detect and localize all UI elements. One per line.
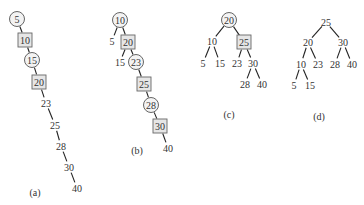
node-label: 23 bbox=[232, 58, 242, 69]
node-20: 20 bbox=[222, 13, 237, 28]
edge-30-28 bbox=[247, 69, 251, 79]
node-15: 15 bbox=[115, 57, 125, 68]
node-15: 15 bbox=[215, 58, 225, 69]
node-30: 30 bbox=[64, 162, 74, 173]
node-20: 20 bbox=[303, 37, 313, 48]
node-10: 10 bbox=[296, 59, 306, 70]
node-23: 23 bbox=[129, 55, 144, 70]
caption-b: (b) bbox=[131, 145, 143, 157]
node-15: 15 bbox=[305, 80, 315, 91]
node-28: 28 bbox=[240, 79, 250, 90]
edge-5-10 bbox=[20, 26, 22, 32]
edge-10-5 bbox=[114, 27, 117, 35]
node-label: 23 bbox=[41, 98, 51, 109]
node-28: 28 bbox=[330, 59, 340, 70]
node-10: 10 bbox=[207, 36, 217, 47]
node-30: 30 bbox=[248, 58, 258, 69]
edge-28-30 bbox=[63, 152, 67, 162]
edge-10-15 bbox=[28, 48, 30, 53]
node-label: 5 bbox=[201, 58, 206, 69]
edge-15-20 bbox=[34, 68, 36, 75]
node-label: 40 bbox=[347, 59, 357, 70]
node-label: 10 bbox=[115, 15, 125, 26]
node-40: 40 bbox=[72, 183, 82, 194]
edge-20-15 bbox=[122, 49, 125, 56]
node-25: 25 bbox=[321, 17, 331, 28]
edge-10-5 bbox=[205, 47, 209, 58]
node-20: 20 bbox=[121, 35, 135, 49]
edge-30-40 bbox=[71, 173, 75, 183]
node-25: 25 bbox=[50, 120, 60, 131]
edge-30-40 bbox=[345, 48, 349, 59]
edge-23-25 bbox=[48, 109, 52, 120]
node-label: 23 bbox=[313, 59, 323, 70]
node-10: 10 bbox=[18, 33, 32, 47]
edge-25-28 bbox=[147, 92, 149, 98]
node-label: 25 bbox=[321, 17, 331, 28]
node-label: 20 bbox=[224, 15, 234, 26]
node-5: 5 bbox=[110, 36, 115, 47]
edge-20-23 bbox=[131, 49, 133, 54]
node-30: 30 bbox=[153, 119, 167, 133]
node-40: 40 bbox=[347, 59, 357, 70]
node-label: 30 bbox=[64, 162, 74, 173]
node-label: 20 bbox=[34, 77, 44, 88]
node-label: 5 bbox=[110, 36, 115, 47]
edge-20-10 bbox=[216, 26, 224, 36]
edge-20-10 bbox=[303, 48, 306, 59]
node-label: 10 bbox=[296, 59, 306, 70]
node-label: 25 bbox=[50, 120, 60, 131]
node-5: 5 bbox=[292, 80, 297, 91]
node-label: 15 bbox=[305, 80, 315, 91]
node-label: 40 bbox=[163, 143, 173, 154]
edge-20-23 bbox=[42, 90, 45, 98]
node-28: 28 bbox=[144, 98, 159, 113]
node-label: 23 bbox=[131, 57, 141, 68]
edge-10-15 bbox=[214, 47, 218, 58]
caption-c: (c) bbox=[223, 109, 234, 121]
edge-28-30 bbox=[154, 112, 157, 118]
caption-d: (d) bbox=[313, 111, 325, 123]
edge-10-5 bbox=[296, 70, 299, 80]
edge-25-30 bbox=[330, 27, 339, 38]
node-label: 10 bbox=[20, 35, 30, 46]
node-label: 5 bbox=[15, 14, 20, 25]
node-25: 25 bbox=[237, 35, 251, 49]
node-5: 5 bbox=[201, 58, 206, 69]
node-15: 15 bbox=[25, 53, 40, 68]
node-label: 10 bbox=[207, 36, 217, 47]
node-label: 15 bbox=[215, 58, 225, 69]
node-label: 15 bbox=[115, 57, 125, 68]
node-20: 20 bbox=[32, 75, 46, 89]
node-label: 5 bbox=[292, 80, 297, 91]
edge-20-23 bbox=[310, 47, 315, 58]
splay-tree-diagram: 51015202325283040 10520152325283040 2010… bbox=[0, 0, 364, 205]
node-25: 25 bbox=[137, 77, 151, 91]
node-label: 15 bbox=[27, 55, 37, 66]
node-40: 40 bbox=[163, 143, 173, 154]
edge-20-25 bbox=[234, 27, 240, 36]
edge-30-28 bbox=[337, 48, 341, 59]
node-label: 30 bbox=[338, 37, 348, 48]
tree-a: 51015202325283040 bbox=[10, 12, 83, 195]
node-23: 23 bbox=[232, 58, 242, 69]
node-23: 23 bbox=[313, 59, 323, 70]
edge-10-20 bbox=[123, 28, 126, 35]
node-label: 40 bbox=[257, 79, 267, 90]
edge-30-40 bbox=[255, 69, 259, 79]
node-40: 40 bbox=[257, 79, 267, 90]
node-label: 25 bbox=[139, 79, 149, 90]
edge-23-25 bbox=[139, 70, 142, 77]
node-label: 30 bbox=[248, 58, 258, 69]
edge-25-20 bbox=[312, 26, 322, 37]
node-23: 23 bbox=[41, 98, 51, 109]
node-5: 5 bbox=[10, 12, 25, 27]
edge-30-40 bbox=[163, 134, 166, 143]
tree-c: 20102551523302840 bbox=[201, 13, 268, 91]
edge-25-23 bbox=[239, 50, 242, 58]
caption-a: (a) bbox=[29, 187, 40, 199]
node-30: 30 bbox=[338, 37, 348, 48]
edge-25-30 bbox=[247, 49, 250, 57]
node-label: 28 bbox=[146, 100, 156, 111]
node-label: 28 bbox=[56, 141, 66, 152]
